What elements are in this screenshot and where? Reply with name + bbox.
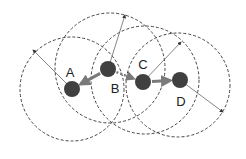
node-label-a: A (66, 65, 75, 80)
link-arrow-b-to-a (81, 73, 100, 84)
wireless-range-diagram: ABCD (0, 0, 246, 159)
node-c (135, 74, 151, 90)
node-label-c: C (138, 57, 147, 72)
range-circles (20, 13, 230, 141)
radius-arrow-d (180, 80, 223, 112)
node-label-d: D (176, 94, 185, 109)
link-arrow-c-to-d (152, 81, 170, 82)
node-d (172, 72, 188, 88)
node-a (64, 81, 80, 97)
node-label-b: B (111, 81, 120, 96)
link-arrows (81, 72, 170, 84)
node-b (100, 61, 116, 77)
link-arrow-b-to-c (116, 72, 133, 78)
radius-arrow-b (108, 15, 125, 69)
